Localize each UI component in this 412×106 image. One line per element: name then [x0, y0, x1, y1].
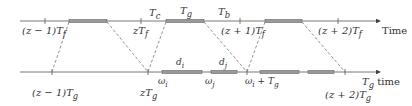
top-axis-label: Time: [382, 26, 407, 36]
top-tick-label-1: zTf: [133, 26, 148, 38]
bottom-tick-label-0: (z − 1)Tg: [32, 88, 78, 100]
omega-i-label: ωi: [158, 77, 168, 88]
dashed-mappings: [52, 22, 345, 72]
top-tick-label-2: (z + 1)Tf: [221, 26, 265, 38]
bottom-tick-label-2: (z + 2)Tg: [325, 90, 371, 102]
tb-label: Tb: [218, 7, 230, 19]
d-i-label: di: [176, 58, 184, 69]
bottom-tick-label-1: zTg: [140, 88, 157, 100]
tg-label: Tg: [180, 6, 192, 18]
top-tick-label-3: (z + 2)Tf: [318, 26, 362, 38]
d-j-label: dj: [219, 58, 227, 69]
top-tick-label-0: (z − 1)Tf: [22, 26, 66, 38]
top-bars: [69, 20, 302, 23]
omega-j-label: ωj: [205, 77, 215, 88]
omega-i-plus-tg-label: ωi + Tg: [245, 77, 279, 88]
tc-label: Tc: [149, 8, 160, 20]
bottom-axis-label: Tg time: [362, 77, 400, 89]
